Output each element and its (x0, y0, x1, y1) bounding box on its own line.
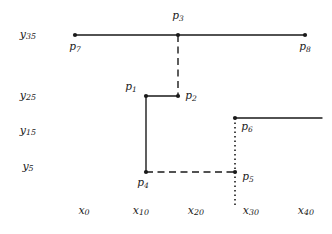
data-point-p8[interactable] (303, 33, 307, 37)
data-point-p5[interactable] (233, 170, 237, 174)
point-label-sub-p8: 8 (306, 45, 311, 54)
point-label-p6: p6 (241, 121, 253, 133)
point-label-p5: p5 (242, 171, 254, 183)
x-axis-label-x30: x30 (243, 205, 259, 218)
x-label-sub-x30: 30 (249, 208, 259, 217)
point-label-base-p7: p (69, 40, 76, 52)
point-label-base-p8: p (299, 40, 306, 52)
y-axis-label-y35: y35 (20, 29, 36, 42)
point-label-base-p1: p (125, 80, 132, 92)
point-label-p1: p1 (125, 81, 137, 93)
point-label-p3: p3 (172, 10, 184, 22)
x-label-sub-x20: 20 (194, 208, 204, 217)
point-label-p2: p2 (185, 90, 197, 102)
diagram-svg (0, 0, 332, 234)
point-label-base-p3: p (172, 9, 179, 21)
point-label-sub-p2: 2 (192, 94, 197, 103)
point-label-sub-p7: 7 (76, 45, 81, 54)
point-label-sub-p1: 1 (132, 85, 137, 94)
point-label-sub-p5: 5 (249, 175, 254, 184)
y-label-sub-y25: 25 (26, 93, 36, 102)
y-axis-label-y25: y25 (20, 90, 36, 103)
point-label-sub-p4: 4 (144, 181, 149, 190)
point-label-base-p2: p (185, 89, 192, 101)
data-point-p6[interactable] (233, 116, 237, 120)
data-point-p7[interactable] (73, 33, 77, 37)
points-group (73, 33, 307, 174)
x-axis-label-x10: x10 (133, 205, 149, 218)
point-label-p7: p7 (69, 41, 81, 53)
point-label-p8: p8 (299, 41, 311, 53)
x-label-sub-x10: 10 (139, 208, 149, 217)
point-label-base-p5: p (242, 170, 249, 182)
y-label-sub-y5: 5 (29, 164, 34, 173)
segments-group (75, 35, 322, 205)
x-axis-label-x0: x0 (78, 205, 89, 218)
x-axis-label-x20: x20 (188, 205, 204, 218)
x-label-sub-x40: 40 (304, 208, 314, 217)
x-axis-label-x40: x40 (298, 205, 314, 218)
point-label-base-p6: p (241, 120, 248, 132)
data-point-p1[interactable] (144, 94, 148, 98)
data-point-p4[interactable] (144, 170, 148, 174)
data-point-p3[interactable] (176, 33, 180, 37)
y-label-sub-y35: 35 (26, 32, 36, 41)
diagram-canvas: p1p2p3p4p5p6p7p8y35y25y15y5x0x10x20x30x4… (0, 0, 332, 234)
x-label-sub-x0: 0 (85, 208, 90, 217)
point-label-p4: p4 (137, 177, 149, 189)
y-axis-label-y15: y15 (20, 125, 36, 138)
point-label-base-p4: p (137, 176, 144, 188)
y-axis-label-y5: y5 (22, 161, 33, 174)
data-point-p2[interactable] (176, 94, 180, 98)
y-label-sub-y15: 15 (26, 128, 36, 137)
point-label-sub-p3: 3 (179, 14, 184, 23)
point-label-sub-p6: 6 (248, 125, 253, 134)
